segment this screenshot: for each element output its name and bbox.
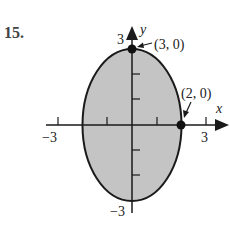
right-vertex-point [177, 121, 186, 130]
top-point-label: (3, 0) [154, 37, 185, 53]
y-max-label: 3 [117, 32, 124, 47]
x-axis-arrow-icon [215, 119, 229, 131]
x-max-label: 3 [201, 130, 208, 145]
ellipse-graph: y x 3 −3 −3 3 (3, 0) (2, 0) [0, 0, 230, 226]
x-axis-label: x [215, 101, 223, 116]
right-annotation-arrowhead-icon [183, 110, 189, 118]
y-axis-arrow-icon [126, 26, 138, 40]
y-axis-label: y [138, 22, 147, 37]
top-annotation-arrowhead-icon [137, 43, 144, 49]
top-vertex-point [128, 45, 137, 54]
x-min-label: −3 [42, 130, 57, 145]
right-point-label: (2, 0) [181, 86, 212, 102]
y-min-label: −3 [110, 204, 125, 219]
